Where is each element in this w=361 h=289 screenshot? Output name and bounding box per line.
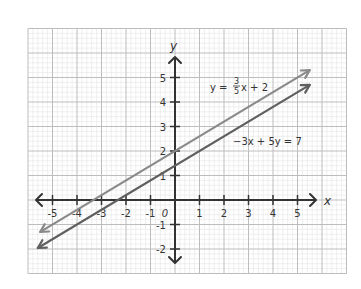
- x-tick-label: -1: [146, 208, 156, 219]
- axes: [36, 57, 316, 263]
- major-gridlines: [28, 29, 347, 274]
- x-tick-label: 0: [162, 208, 168, 219]
- line1-label-numerator: 3: [234, 77, 239, 86]
- graph-paper-chart: -5-4-3-2-1012345-2-112345 x y y = 3 5 x …: [0, 0, 361, 289]
- line-path: [38, 85, 310, 248]
- series-line-2: [38, 85, 310, 248]
- x-tick-label: 2: [221, 208, 227, 219]
- y-tick-label: 4: [160, 97, 166, 108]
- x-tick-label: 3: [245, 208, 251, 219]
- line1-label-denominator: 5: [234, 87, 239, 96]
- x-tick-label: -5: [48, 208, 58, 219]
- y-tick-label: -1: [156, 220, 166, 231]
- line2-equation-label: −3x + 5y = 7: [233, 136, 302, 147]
- x-tick-label: 1: [196, 208, 202, 219]
- y-tick-label: 3: [160, 122, 166, 133]
- x-tick-label: 4: [270, 208, 276, 219]
- y-tick-label: -2: [156, 244, 166, 255]
- x-tick-label: -2: [121, 208, 131, 219]
- x-axis-label: x: [323, 194, 332, 208]
- y-tick-label: 2: [160, 146, 166, 157]
- line1-equation-label: y = 3 5 x + 2: [210, 77, 268, 96]
- y-tick-label: 5: [160, 73, 166, 84]
- line1-label-prefix: y =: [210, 82, 227, 93]
- line1-label-suffix: x + 2: [241, 82, 268, 93]
- y-axis-label: y: [169, 39, 178, 53]
- x-tick-label: 5: [294, 208, 300, 219]
